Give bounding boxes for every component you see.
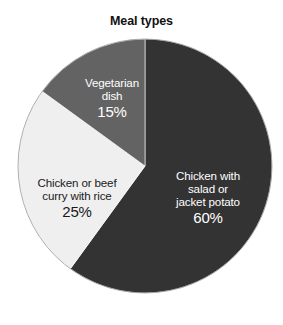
pie-chart-plot-area: Chicken with salad or jacket potato 60% … xyxy=(0,0,283,325)
pie-chart-figure: Meal types Chicken with salad or jacket … xyxy=(0,0,283,325)
pie-svg xyxy=(0,0,283,325)
pie-slices-group xyxy=(18,39,272,293)
